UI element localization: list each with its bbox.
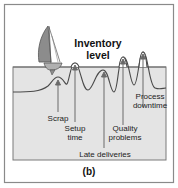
label-setup-line2: time bbox=[67, 133, 83, 142]
inventory-title-line1: Inventory bbox=[74, 37, 121, 49]
label-quality-line1: Quality bbox=[113, 124, 138, 133]
label-scrap: Scrap bbox=[48, 114, 69, 123]
label-process-line1: Process bbox=[136, 92, 165, 101]
figure-caption: (b) bbox=[83, 166, 96, 177]
inventory-title-line2: level bbox=[86, 49, 109, 61]
inventory-rocks-diagram: Inventory level Scrap Setup time Late de… bbox=[0, 0, 178, 188]
label-process-line2: downtime bbox=[133, 101, 168, 110]
diagram-canvas: Inventory level Scrap Setup time Late de… bbox=[0, 0, 178, 188]
label-late-deliveries: Late deliveries bbox=[79, 150, 131, 159]
label-setup-line1: Setup bbox=[65, 124, 86, 133]
label-quality-line2: problems bbox=[109, 133, 142, 142]
